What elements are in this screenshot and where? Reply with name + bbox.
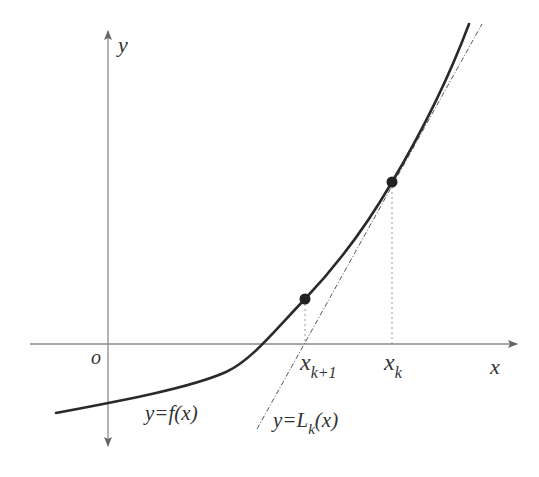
xk-label: xk bbox=[383, 349, 403, 381]
curve-label: y=f(x) bbox=[143, 401, 198, 425]
xk1-label: xk+1 bbox=[299, 349, 337, 381]
y-axis-label: y bbox=[116, 32, 128, 57]
point-xk bbox=[387, 177, 398, 188]
point-xk1 bbox=[300, 294, 311, 305]
function-curve bbox=[56, 24, 469, 413]
x-axis-label: x bbox=[489, 354, 500, 379]
newton-method-diagram: y x o xk+1 xk y=f(x) y=Lk(x) bbox=[0, 0, 539, 477]
tangent-line bbox=[257, 24, 482, 429]
origin-label: o bbox=[91, 346, 101, 368]
tangent-label: y=Lk(x) bbox=[271, 408, 338, 437]
